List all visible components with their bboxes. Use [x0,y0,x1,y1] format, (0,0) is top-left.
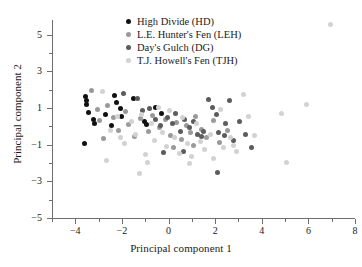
y-tick-major [47,218,52,219]
x-tick-minor [192,219,193,222]
data-point-dg [178,129,183,134]
data-point-tjh [156,105,161,110]
data-point-dg [165,115,170,120]
legend-label: High Divide (HD) [137,15,214,28]
data-point-tjh [137,171,142,176]
data-point-hd [86,110,91,115]
legend-label: T.J. Howell's Fen (TJH) [137,54,238,67]
legend-item: High Divide (HD) [126,15,241,28]
data-point-dg [243,132,248,137]
legend-item: T.J. Howell's Fen (TJH) [126,54,241,67]
data-point-dg [173,111,178,116]
x-tick-label: 8 [340,225,362,236]
scatter-plot-figure: −4−202468531−1−3−5 Principal component 1… [0,0,362,267]
x-tick-label: −4 [60,225,90,236]
y-axis-line [52,20,53,218]
data-point-leh [95,107,100,112]
data-point-hd [114,100,119,105]
x-tick-major [215,219,216,224]
x-tick-major [355,219,356,224]
x-tick-minor [145,219,146,222]
legend-marker-icon [126,19,131,24]
y-tick-major [47,145,52,146]
x-tick-major [262,219,263,224]
data-point-tjh [189,154,194,159]
y-tick-minor [49,126,52,127]
data-point-tjh [143,152,148,157]
y-tick-label: −1 [22,139,42,150]
data-point-tjh [234,149,239,154]
y-tick-minor [49,90,52,91]
y-tick-label: 3 [22,65,42,76]
data-point-dg [158,123,163,128]
data-point-dg [135,96,140,101]
x-tick-major [122,219,123,224]
data-point-leh [123,109,128,114]
data-point-hd [92,121,97,126]
y-tick-major [47,35,52,36]
y-tick-label: 1 [22,102,42,113]
x-tick-major [308,219,309,224]
legend-label: L.E. Hunter's Fen (LEH) [137,28,241,41]
x-tick-label: 0 [154,225,184,236]
data-point-tjh [228,135,233,140]
y-tick-minor [49,200,52,201]
x-tick-label: 6 [293,225,323,236]
y-tick-major [47,181,52,182]
y-tick-major [47,108,52,109]
data-point-tjh [115,114,120,119]
data-point-dg [170,121,175,126]
legend-marker-icon [126,58,131,63]
data-point-dg [215,170,220,175]
y-tick-major [47,71,52,72]
x-axis-title: Principal component 1 [0,242,362,254]
legend-item: L.E. Hunter's Fen (LEH) [126,28,241,41]
data-point-leh [116,128,121,133]
data-point-tjh [108,128,113,133]
data-point-leh [179,137,184,142]
data-point-dg [187,125,192,130]
data-point-tjh [221,145,226,150]
data-point-tjh [122,141,127,146]
x-tick-label: 2 [200,225,230,236]
data-point-dg [210,105,215,110]
y-tick-label: −5 [22,212,42,223]
y-tick-label: −3 [22,175,42,186]
data-point-hd [84,102,89,107]
data-point-leh [191,143,196,148]
y-tick-label: 5 [22,29,42,40]
x-tick-minor [285,219,286,222]
data-point-dg [121,91,126,96]
data-point-hd [159,111,164,116]
x-tick-minor [52,219,53,222]
data-point-tjh [177,151,182,156]
x-axis-line [52,218,355,219]
data-point-tjh [149,121,154,126]
data-point-tjh [185,141,190,146]
x-tick-minor [238,219,239,222]
data-point-tjh [100,89,105,94]
data-point-tjh [129,119,134,124]
y-tick-minor [49,163,52,164]
x-tick-major [169,219,170,224]
y-axis-title: Principal component 2 [11,44,23,184]
legend: High Divide (HD)L.E. Hunter's Fen (LEH)D… [126,15,241,67]
data-point-tjh [202,147,207,152]
x-tick-minor [99,219,100,222]
data-point-leh [174,120,179,125]
legend-item: Day's Gulch (DG) [126,41,241,54]
x-tick-major [75,219,76,224]
data-point-tjh [279,111,284,116]
x-tick-label: −2 [107,225,137,236]
data-point-tjh [145,160,150,165]
data-point-dg [181,149,186,154]
legend-marker-icon [126,32,131,37]
data-point-dg [227,98,232,103]
x-tick-minor [332,219,333,222]
data-point-dg [206,97,211,102]
data-point-leh [193,114,198,119]
data-point-tjh [304,102,309,107]
y-tick-minor [49,53,52,54]
data-point-tjh [208,132,213,137]
data-point-tjh [284,160,289,165]
